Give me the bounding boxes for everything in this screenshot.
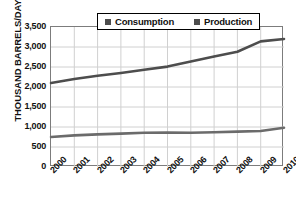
plot-area	[50, 26, 283, 166]
legend-label: Consumption	[115, 16, 174, 27]
y-tick-label: 3,000	[2, 41, 46, 51]
chart-legend: Consumption Production	[97, 13, 260, 30]
y-tick-label: 0	[2, 161, 46, 171]
legend-item-production[interactable]: Production	[194, 16, 252, 27]
y-axis-tick-labels: 05001,0001,5002,0002,5003,0003,500	[0, 26, 46, 166]
y-tick-label: 2,000	[2, 81, 46, 91]
legend-swatch-icon	[105, 19, 111, 25]
y-tick-label: 1,000	[2, 121, 46, 131]
legend-item-consumption[interactable]: Consumption	[105, 16, 174, 27]
x-axis-tick-labels: 2000200120022003200420052006200720082009…	[50, 168, 283, 211]
legend-swatch-icon	[194, 19, 200, 25]
legend-label: Production	[204, 16, 252, 27]
chart-title-remnant	[56, 0, 206, 6]
y-tick-label: 2,500	[2, 61, 46, 71]
series-layer	[51, 27, 284, 167]
y-tick-label: 1,500	[2, 101, 46, 111]
y-tick-label: 3,500	[2, 21, 46, 31]
line-chart: THOUSAND BARRELS/DAY 05001,0001,5002,000…	[0, 0, 296, 211]
y-tick-label: 500	[2, 141, 46, 151]
